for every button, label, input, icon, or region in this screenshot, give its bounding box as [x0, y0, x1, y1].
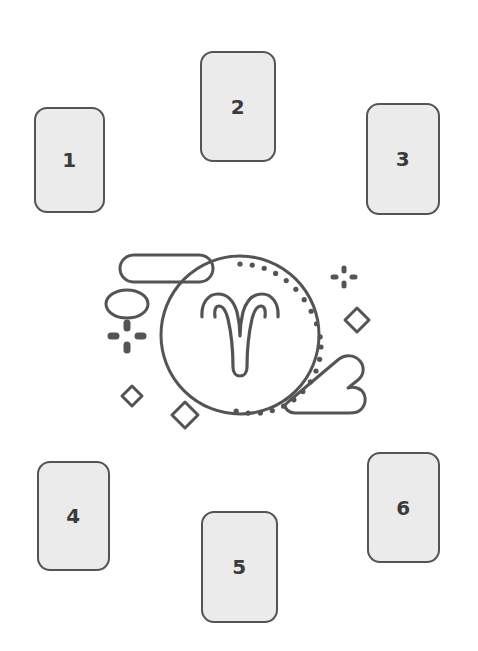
card-number-label: 5: [232, 557, 246, 577]
card-number-label: 6: [396, 498, 410, 518]
spread-canvas: 1 2 3 4 5 6: [0, 0, 478, 651]
aries-zodiac-illustration: [105, 228, 385, 443]
diamond-bottom-left-small: [122, 386, 142, 406]
sparkle-top-right: [333, 268, 355, 286]
spread-card-5[interactable]: 5: [201, 511, 278, 623]
spread-card-4[interactable]: 4: [37, 461, 110, 571]
spread-card-2[interactable]: 2: [200, 51, 276, 162]
ellipse-left: [106, 290, 148, 318]
sparkle-left: [111, 323, 143, 350]
spread-card-1[interactable]: 1: [34, 107, 105, 213]
cloud-bottom-right: [285, 356, 365, 413]
aries-glyph: [202, 294, 278, 376]
diamond-right: [345, 308, 369, 332]
spread-card-6[interactable]: 6: [367, 452, 440, 563]
aries-illustration-svg: [105, 228, 385, 443]
card-number-label: 1: [62, 150, 76, 170]
card-number-label: 4: [66, 506, 80, 526]
spread-card-3[interactable]: 3: [366, 103, 440, 215]
diamond-bottom-left-large: [172, 402, 198, 428]
card-number-label: 3: [396, 149, 410, 169]
card-number-label: 2: [231, 97, 245, 117]
